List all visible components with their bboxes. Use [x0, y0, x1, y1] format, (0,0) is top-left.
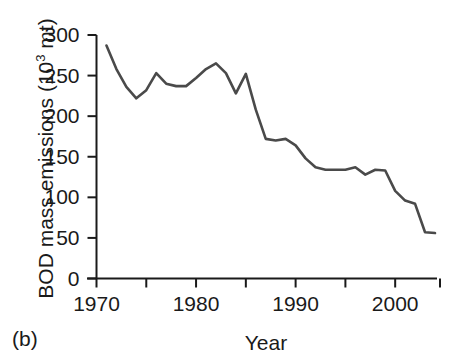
y-axis-tick-label: 0	[10, 268, 80, 289]
y-axis-tick-label: 50	[10, 227, 80, 248]
x-axis-tick-label: 1970	[57, 293, 137, 314]
x-axis-tick-label: 2000	[355, 293, 435, 314]
axes-group	[87, 35, 440, 288]
chart-figure: BOD mass emissions (103 mt) Year (b) 050…	[0, 0, 452, 364]
y-axis-title-exponent: 3	[33, 55, 48, 62]
x-axis-tick-label: 1980	[156, 293, 236, 314]
y-axis-tick-label: 200	[10, 105, 80, 126]
y-axis-tick-label: 150	[10, 146, 80, 167]
x-axis-ticks	[97, 279, 440, 288]
x-axis-title: Year	[96, 332, 436, 353]
y-axis-tick-label: 100	[10, 186, 80, 207]
y-axis-title-main: BOD mass emissions (10	[34, 62, 57, 299]
y-axis-tick-label: 300	[10, 24, 80, 45]
y-axis-ticks	[88, 35, 97, 279]
x-axis-tick-label: 1990	[256, 293, 336, 314]
data-series-group	[106, 46, 435, 234]
y-axis-tick-label: 250	[10, 65, 80, 86]
panel-label: (b)	[12, 328, 38, 349]
data-line-bod-mass-emissions	[106, 46, 435, 234]
